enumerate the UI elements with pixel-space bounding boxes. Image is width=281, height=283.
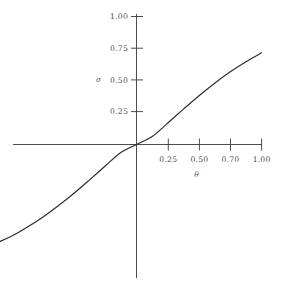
- y-tick-label-0.50: 0.50: [110, 76, 128, 85]
- x-tick-label-0.50: 0.50: [190, 155, 208, 164]
- y-tick-label-0.25: 0.25: [110, 107, 128, 116]
- y-axis-label: σ: [96, 75, 102, 84]
- x-tick-label-0.25: 0.25: [159, 155, 177, 164]
- chart-figure: 1.00 0.75 0.50 0.25 σ 0.25 0.50 0.70 1.0…: [0, 0, 281, 283]
- sigmoid-plot: 1.00 0.75 0.50 0.25 σ 0.25 0.50 0.70 1.0…: [0, 0, 281, 283]
- x-axis-label: θ: [194, 170, 199, 179]
- y-tick-label-0.75: 0.75: [110, 44, 128, 53]
- y-tick-label-1.00: 1.00: [110, 12, 128, 21]
- x-tick-label-0.70: 0.70: [222, 155, 240, 164]
- x-tick-label-1.00: 1.00: [253, 155, 271, 164]
